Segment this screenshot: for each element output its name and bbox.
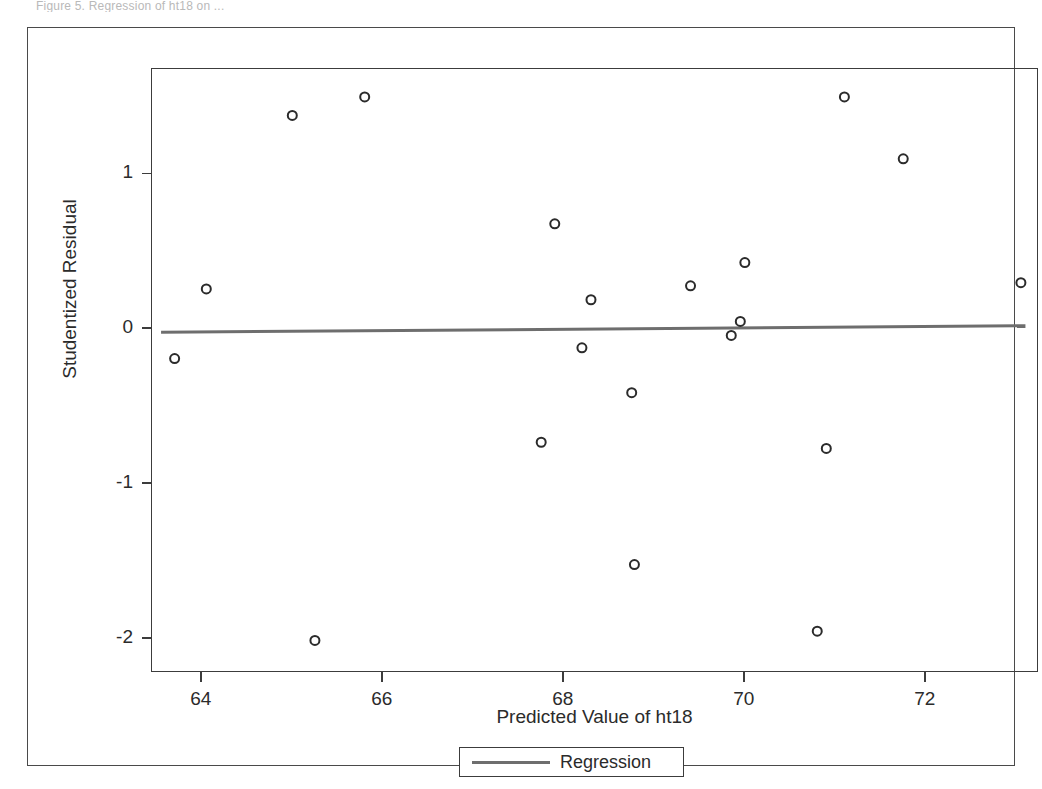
x-tick-mark [562,672,564,682]
figure-outer-border: 10-1-2 6466687072 Studentized Residual P… [27,27,1015,766]
scatter-point [1016,278,1025,287]
scatter-plot-svg [152,69,1039,673]
figure-canvas: Figure 5. Regression of ht18 on ... 10-1… [0,0,1042,789]
scatter-point [360,92,369,101]
legend-line-swatch [472,761,550,764]
x-tick-mark [743,672,745,682]
scatter-point [630,560,639,569]
x-tick-mark [381,672,383,682]
scatter-point [288,111,297,120]
scatter-point [736,317,745,326]
legend-label-regression: Regression [560,752,651,773]
scatter-point [740,258,749,267]
regression-line [161,326,1025,333]
scatter-point [627,388,636,397]
x-tick-mark [200,672,202,682]
x-axis-title: Predicted Value of ht18 [151,706,1038,728]
scatter-point [577,343,586,352]
scatter-point [170,354,179,363]
scatter-point [727,331,736,340]
scatter-point [813,627,822,636]
y-axis-title: Studentized Residual [59,89,81,489]
scatter-point [840,92,849,101]
y-tick-mark [142,173,151,175]
scatter-point [822,444,831,453]
clipped-header-text: Figure 5. Regression of ht18 on ... [36,0,556,12]
scatter-point [310,636,319,645]
y-tick-mark [142,482,151,484]
scatter-point [537,438,546,447]
scatter-point [586,295,595,304]
y-tick-mark [142,327,151,329]
legend: Regression [459,747,684,777]
x-tick-mark [924,672,926,682]
scatter-point [686,281,695,290]
y-tick-mark [142,637,151,639]
y-tick-label: -2 [71,626,133,648]
plot-area [151,68,1038,672]
scatter-point [899,154,908,163]
scatter-point [550,219,559,228]
scatter-point [202,284,211,293]
